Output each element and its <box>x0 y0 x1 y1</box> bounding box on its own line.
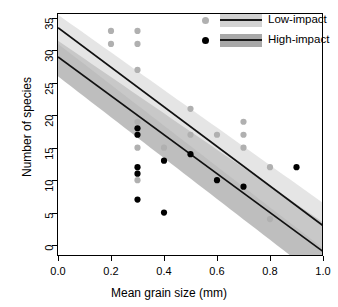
data-point-low-impact <box>134 145 140 151</box>
y-tick-label: 15 <box>44 147 55 159</box>
x-axis-title: Mean grain size (mm) <box>0 286 338 300</box>
x-tick <box>111 256 112 261</box>
data-point-low-impact <box>214 132 220 138</box>
y-tick-label: 25 <box>44 82 55 94</box>
data-point-low-impact <box>108 41 114 47</box>
y-tick-label: 5 <box>44 212 55 218</box>
data-point-low-impact <box>240 132 246 138</box>
plot-canvas <box>58 14 322 255</box>
x-tick-label: 0.8 <box>262 265 277 277</box>
figure-scatter-plot: Number of species 05101520253035 0.00.20… <box>0 0 338 307</box>
x-tick-label: 1.0 <box>315 265 330 277</box>
legend-line-low-impact <box>220 19 262 21</box>
data-point-low-impact <box>134 67 140 73</box>
legend-item-low-impact: Low-impact <box>198 12 333 29</box>
data-point-low-impact <box>134 119 140 125</box>
data-point-low-impact <box>134 177 140 183</box>
legend-label-high-impact: High-impact <box>268 33 329 45</box>
x-tick-label: 0.0 <box>50 265 65 277</box>
data-point-low-impact <box>134 41 140 47</box>
data-point-low-impact <box>240 145 246 151</box>
data-point-high-impact <box>293 164 299 170</box>
data-point-high-impact <box>161 209 167 215</box>
data-point-low-impact <box>267 164 273 170</box>
y-tick-label: 10 <box>44 180 55 192</box>
regression-line-low-impact <box>58 28 322 226</box>
data-point-low-impact <box>240 119 246 125</box>
x-tick-label: 0.2 <box>103 265 118 277</box>
data-point-high-impact <box>240 184 246 190</box>
data-point-high-impact <box>187 151 193 157</box>
data-point-low-impact <box>134 28 140 34</box>
x-tick <box>58 256 59 261</box>
legend: Low-impact High-impact <box>198 12 333 50</box>
data-point-high-impact <box>161 158 167 164</box>
legend-line-high-impact <box>220 39 262 41</box>
data-point-high-impact <box>134 197 140 203</box>
data-point-high-impact <box>134 171 140 177</box>
x-axis: 0.00.20.40.60.81.0 Mean grain size (mm) <box>0 256 338 307</box>
x-tick <box>164 256 165 261</box>
legend-item-high-impact: High-impact <box>198 32 333 49</box>
legend-marker-dot-high-impact <box>202 37 209 44</box>
data-point-high-impact <box>134 132 140 138</box>
x-tick-label: 0.6 <box>209 265 224 277</box>
y-tick-label: 35 <box>44 18 55 30</box>
data-point-high-impact <box>134 164 140 170</box>
x-tick <box>270 256 271 261</box>
data-point-low-impact <box>108 28 114 34</box>
y-tick-label: 20 <box>44 115 55 127</box>
x-tick <box>217 256 218 261</box>
y-tick-label: 0 <box>44 245 55 251</box>
data-point-low-impact <box>161 145 167 151</box>
data-point-low-impact <box>187 106 193 112</box>
legend-marker-dot-low-impact <box>202 17 209 24</box>
y-tick-label: 30 <box>44 50 55 62</box>
data-point-low-impact <box>187 132 193 138</box>
y-axis-title: Number of species <box>20 57 34 197</box>
legend-label-low-impact: Low-impact <box>268 13 327 25</box>
x-tick <box>323 256 324 261</box>
x-tick-label: 0.4 <box>156 265 171 277</box>
data-point-high-impact <box>134 125 140 131</box>
data-point-high-impact <box>214 177 220 183</box>
data-point-low-impact <box>267 216 273 222</box>
